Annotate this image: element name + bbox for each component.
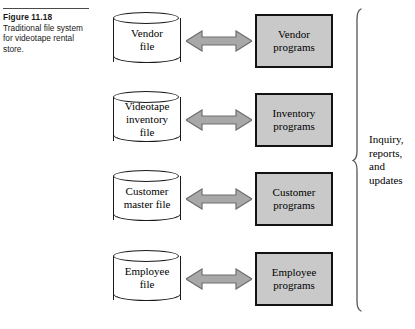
file-label-customer-master: Customer master file bbox=[113, 176, 181, 220]
file-label-line: Videotape bbox=[125, 100, 170, 113]
output-label-line: updates bbox=[369, 174, 415, 188]
program-box-customer: Customer programs bbox=[255, 172, 333, 226]
program-label-line: Employee bbox=[272, 266, 317, 280]
file-label-line: master file bbox=[124, 198, 171, 211]
file-label-line: Vendor bbox=[131, 27, 163, 40]
file-label-line: inventory bbox=[126, 113, 168, 126]
file-cylinder-vendor: Vendor file bbox=[113, 12, 181, 69]
grouping-brace-icon bbox=[352, 8, 366, 312]
program-box-vendor: Vendor programs bbox=[255, 14, 333, 68]
file-label-line: Employee bbox=[125, 265, 170, 278]
bidirectional-arrow-icon bbox=[186, 268, 252, 290]
figure-canvas: Figure 11.18 Traditional file system for… bbox=[0, 0, 415, 329]
file-label-videotape-inventory: Videotape inventory file bbox=[113, 97, 181, 141]
program-box-inventory: Inventory programs bbox=[255, 93, 333, 147]
file-cylinder-videotape-inventory: Videotape inventory file bbox=[113, 91, 181, 148]
program-label-line: Inventory bbox=[273, 107, 316, 121]
program-label-line: Vendor bbox=[278, 28, 310, 42]
program-label-line: programs bbox=[273, 120, 315, 134]
file-cylinder-customer-master: Customer master file bbox=[113, 170, 181, 227]
output-label-line: reports, bbox=[369, 147, 415, 161]
file-label-line: file bbox=[140, 40, 155, 53]
program-box-employee: Employee programs bbox=[255, 252, 333, 306]
bidirectional-arrow-icon bbox=[186, 30, 252, 52]
bidirectional-arrow-icon bbox=[186, 109, 252, 131]
file-label-line: file bbox=[140, 278, 155, 291]
bidirectional-arrow-icon bbox=[186, 188, 252, 210]
program-label-line: programs bbox=[273, 279, 315, 293]
program-label-line: Customer bbox=[273, 186, 316, 200]
file-label-line: file bbox=[140, 126, 155, 139]
file-label-line: Customer bbox=[126, 185, 169, 198]
caption-divider bbox=[3, 8, 89, 9]
file-label-vendor: Vendor file bbox=[113, 18, 181, 62]
file-label-employee: Employee file bbox=[113, 256, 181, 300]
program-label-line: programs bbox=[273, 199, 315, 213]
program-label-line: programs bbox=[273, 41, 315, 55]
output-label-line: and bbox=[369, 160, 415, 174]
file-cylinder-employee: Employee file bbox=[113, 250, 181, 307]
output-label-line: Inquiry, bbox=[369, 133, 415, 147]
output-label: Inquiry, reports, and updates bbox=[369, 133, 415, 187]
